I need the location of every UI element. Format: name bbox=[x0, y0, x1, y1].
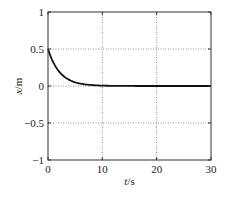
y-tick-label: −0.5 bbox=[24, 117, 44, 129]
x-tick-label: 10 bbox=[97, 163, 109, 175]
y-axis-label: x/m bbox=[12, 77, 24, 95]
x-axis-label: t/s bbox=[124, 175, 134, 187]
y-tick-label: 0.5 bbox=[30, 43, 44, 55]
x-tick-label: 30 bbox=[206, 163, 218, 175]
series-line bbox=[48, 49, 211, 86]
line-chart: 0102030 −1−0.500.51 t/s x/m bbox=[0, 0, 225, 198]
x-tick-label: 20 bbox=[151, 163, 163, 175]
y-tick-label: 0 bbox=[39, 80, 45, 92]
y-tick-label: −1 bbox=[32, 154, 44, 166]
data-series bbox=[48, 49, 211, 86]
y-tick-labels: −1−0.500.51 bbox=[24, 6, 44, 166]
x-tick-label: 0 bbox=[45, 163, 51, 175]
x-tick-labels: 0102030 bbox=[45, 163, 217, 175]
y-tick-label: 1 bbox=[39, 6, 45, 18]
